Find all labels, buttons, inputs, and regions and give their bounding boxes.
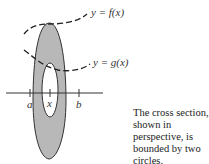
label-b: b [76,98,82,110]
label-f: y = f(x) [91,6,124,18]
label-x: x [47,97,52,109]
caption: The cross section, shown in perspective,… [133,107,209,164]
label-g: y = g(x) [93,56,129,68]
label-a: a [27,98,33,110]
